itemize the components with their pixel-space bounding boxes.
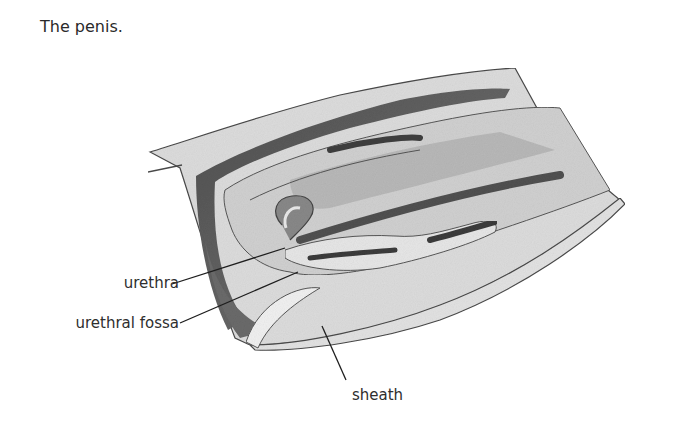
label-urethra: urethra	[124, 274, 179, 292]
label-urethral-fossa: urethral fossa	[75, 314, 179, 332]
anatomical-illustration	[0, 0, 684, 433]
label-sheath: sheath	[352, 386, 403, 404]
edge-fade	[480, 60, 684, 360]
